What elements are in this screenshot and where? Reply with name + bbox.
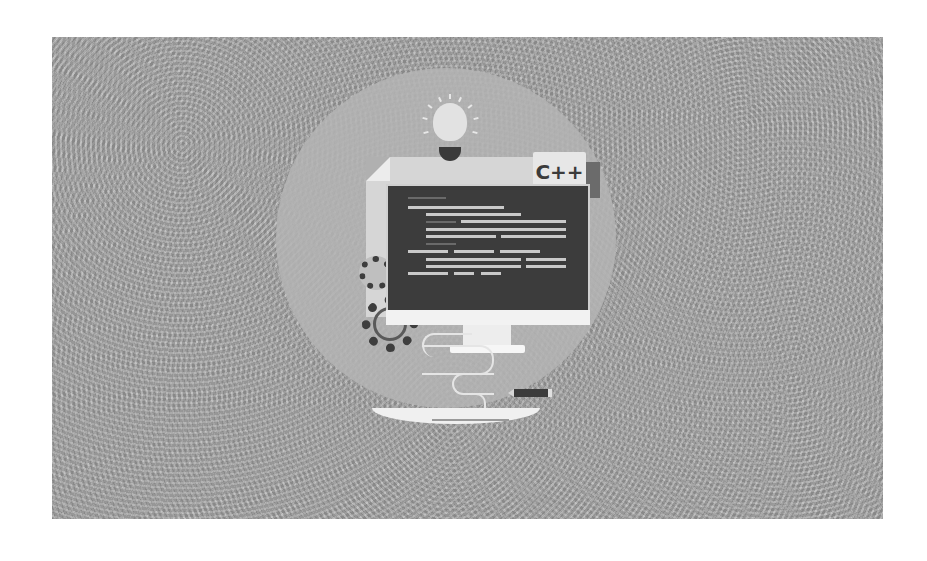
pencil-eraser [548, 389, 552, 397]
code-line [426, 213, 521, 216]
code-line [408, 197, 446, 199]
cable-segment [422, 345, 494, 375]
code-line [461, 220, 566, 223]
code-line [426, 235, 496, 238]
code-line [408, 206, 504, 209]
code-line [426, 265, 521, 268]
code-line [408, 250, 448, 253]
code-line [426, 243, 456, 245]
cpp-label: C++ [535, 160, 583, 184]
code-line [426, 258, 521, 261]
monitor-bezel [386, 310, 590, 325]
code-line [454, 250, 494, 253]
code-line [526, 265, 566, 268]
code-line [500, 250, 540, 253]
keyboard-line [487, 419, 509, 421]
cable-segment [452, 373, 494, 395]
code-line [501, 235, 566, 238]
code-line [426, 228, 566, 231]
code-line [481, 272, 501, 275]
lightbulb-glass [433, 103, 467, 141]
code-line [426, 221, 456, 223]
code-line [526, 258, 566, 261]
light-ray [449, 94, 451, 99]
pencil-icon [514, 389, 548, 397]
code-line [408, 272, 448, 275]
document-fold [366, 157, 390, 181]
monitor-screen [386, 184, 590, 310]
code-line [454, 272, 474, 275]
